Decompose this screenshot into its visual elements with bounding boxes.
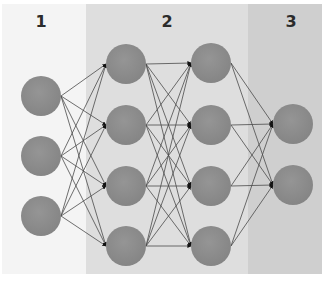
neuron-input-3: [21, 196, 61, 236]
neural-network-diagram: 1 2 3: [0, 0, 329, 282]
neuron-input-1: [21, 76, 61, 116]
neuron-output-2: [273, 165, 313, 205]
neuron-hidden-1-4: [106, 226, 146, 266]
neuron-hidden-1-3: [106, 166, 146, 206]
neuron-input-2: [21, 136, 61, 176]
section-3-label: 3: [285, 12, 296, 31]
neuron-hidden-2-3: [191, 166, 231, 206]
neuron-hidden-2-4: [191, 226, 231, 266]
neuron-hidden-1-2: [106, 105, 146, 145]
neuron-hidden-2-1: [191, 43, 231, 83]
neuron-output-1: [273, 104, 313, 144]
neuron-hidden-1-1: [106, 44, 146, 84]
neuron-hidden-2-2: [191, 105, 231, 145]
section-2-label: 2: [161, 12, 172, 31]
section-1-label: 1: [35, 12, 46, 31]
